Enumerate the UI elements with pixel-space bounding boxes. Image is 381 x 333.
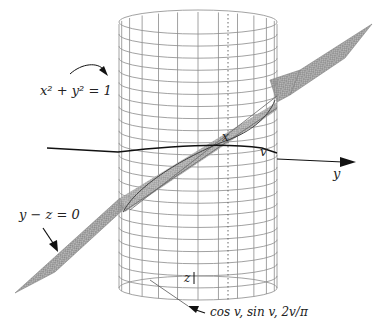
cylinder-equation-label: x² + y² = 1 xyxy=(40,84,112,97)
cylinder-plane-diagram xyxy=(0,0,381,333)
plane-strip-inside xyxy=(120,96,277,212)
y-axis-arrow-icon xyxy=(340,157,356,167)
v-point-label: v xyxy=(260,146,267,158)
z-axis-label: z xyxy=(184,272,190,284)
x-axis-label: x xyxy=(222,131,229,143)
helix-parametrization-label: cos v, sin v, 2v/π xyxy=(210,306,308,318)
plane-pointer-arrow-icon xyxy=(43,228,58,252)
y-axis-label: y xyxy=(333,167,340,180)
plane-equation-label: y − z = 0 xyxy=(19,208,80,221)
cylinder-pointer-arrow-icon xyxy=(70,65,108,76)
